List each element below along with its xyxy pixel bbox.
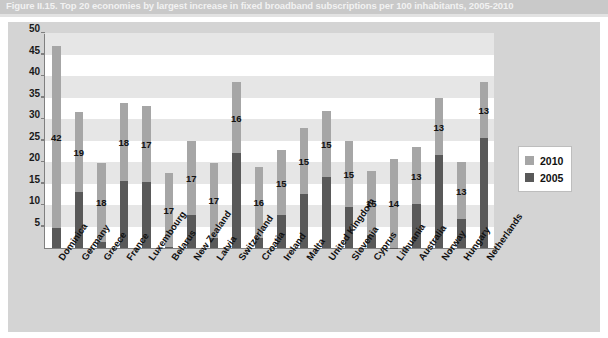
legend-swatch-2010: [525, 156, 534, 165]
y-axis-tick-label: 35: [18, 87, 40, 98]
bar-column[interactable]: [322, 111, 331, 248]
chart-legend: 2010 2005: [518, 146, 572, 192]
y-axis-tick: [41, 32, 45, 34]
bar-value-label: 18: [96, 197, 107, 208]
y-axis-tick-label: 15: [18, 173, 40, 184]
bar-value-label: 19: [73, 147, 84, 158]
grid-band: [45, 119, 494, 141]
bar-segment-2005: [165, 247, 174, 248]
y-axis-tick-label: 40: [18, 66, 40, 77]
grid-band: [45, 162, 494, 184]
bar-value-label: 15: [276, 178, 287, 189]
y-axis-tick-label: 45: [18, 44, 40, 55]
bar-segment-2005: [52, 228, 61, 248]
y-axis-tick: [41, 225, 45, 227]
grid-band: [45, 76, 494, 98]
bar-value-label: 17: [141, 139, 152, 150]
bar-value-label: 42: [51, 132, 62, 143]
y-axis-tick-label: 20: [18, 152, 40, 163]
bar-value-label: 16: [231, 113, 242, 124]
y-axis-tick: [41, 96, 45, 98]
y-axis-tick-label: 5: [18, 216, 40, 227]
bar-column[interactable]: [232, 82, 241, 248]
bar-segment-2005: [322, 177, 331, 248]
y-axis-tick-label: 30: [18, 109, 40, 120]
grid-band: [45, 33, 494, 55]
bar-column[interactable]: [300, 128, 309, 248]
bar-value-label: 17: [186, 173, 197, 184]
y-axis-tick: [41, 75, 45, 77]
y-axis-tick-label: 10: [18, 195, 40, 206]
title-underline: [0, 14, 608, 17]
y-axis-tick: [41, 53, 45, 55]
bar-value-label: 16: [253, 197, 264, 208]
legend-label-2005: 2005: [540, 172, 563, 184]
bar-column[interactable]: [120, 103, 129, 248]
figure-root: Figure II.15. Top 20 economies by larges…: [0, 0, 608, 338]
legend-swatch-2005: [525, 173, 534, 182]
bar-segment-2005: [232, 153, 241, 248]
legend-label-2010: 2010: [540, 155, 563, 167]
bar-value-label: 15: [298, 156, 309, 167]
bar-column[interactable]: [52, 46, 61, 248]
bar-value-label: 13: [433, 122, 444, 133]
chart-panel: 5045403530252015105421918181717171716161…: [8, 22, 600, 332]
y-axis-tick-label: 50: [18, 23, 40, 34]
legend-item-2005[interactable]: 2005: [525, 169, 563, 186]
bar-value-label: 13: [478, 105, 489, 116]
bar-value-label: 14: [388, 198, 399, 209]
bar-value-label: 13: [456, 186, 467, 197]
y-axis-tick: [41, 161, 45, 163]
bar-value-label: 15: [343, 169, 354, 180]
bar-value-label: 13: [411, 171, 422, 182]
y-axis-tick-label: 25: [18, 130, 40, 141]
y-axis-tick: [41, 204, 45, 206]
legend-item-2010[interactable]: 2010: [525, 152, 563, 169]
y-axis-tick: [41, 182, 45, 184]
y-axis-tick: [41, 118, 45, 120]
figure-title-bar: Figure II.15. Top 20 economies by larges…: [0, 0, 608, 14]
bar-value-label: 17: [208, 195, 219, 206]
x-axis-labels: DominicaGermanyGreeceFranceLuxembourgBel…: [44, 254, 494, 329]
y-axis-tick: [41, 139, 45, 141]
bar-value-label: 17: [163, 205, 174, 216]
bar-value-label: 18: [118, 137, 129, 148]
bar-value-label: 15: [321, 139, 332, 150]
figure-title: Figure II.15. Top 20 economies by larges…: [6, 0, 513, 13]
bar-column[interactable]: [142, 106, 151, 248]
